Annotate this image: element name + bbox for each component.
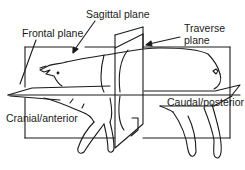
label-traverse-plane-line1: Traverse (184, 23, 225, 34)
label-frontal-plane: Frontal plane (22, 28, 83, 39)
anatomical-planes-diagram: Sagittal plane Frontal plane Traverse pl… (0, 0, 245, 170)
label-caudal-posterior: Caudal/posterior (167, 97, 244, 108)
label-traverse-plane-line2: plane (184, 35, 210, 46)
label-cranial-anterior: Cranial/anterior (6, 113, 78, 124)
label-sagittal-plane: Sagittal plane (86, 9, 150, 20)
sagittal-plane (25, 47, 230, 138)
